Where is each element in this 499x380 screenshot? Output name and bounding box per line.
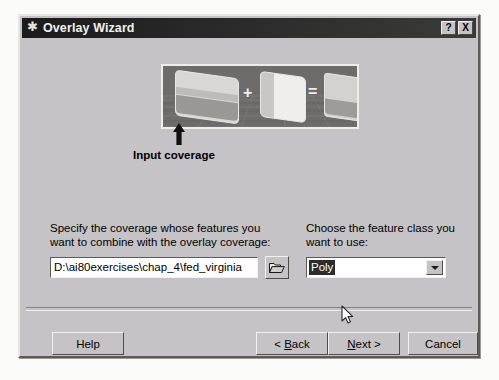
- titlebar[interactable]: ✱ Overlay Wizard ? X: [22, 18, 476, 38]
- coverage-field-label: Specify the coverage whose features you …: [50, 221, 286, 249]
- asterisk-icon: ✱: [24, 20, 40, 36]
- input-coverage-layer: [175, 70, 239, 125]
- up-arrow-icon: [172, 123, 186, 145]
- screenshot-root: ✱ Overlay Wizard ? X: [0, 0, 499, 380]
- overlay-wizard-dialog: ✱ Overlay Wizard ? X: [18, 14, 480, 358]
- cancel-button[interactable]: Cancel: [408, 332, 478, 355]
- feature-class-selected-value: Poly: [309, 260, 335, 275]
- coverage-path-input[interactable]: D:\ai80exercises\chap_4\fed_virginia: [50, 257, 258, 278]
- chevron-down-glyph: [431, 266, 439, 270]
- diagram-caption: Input coverage: [133, 149, 215, 161]
- close-button[interactable]: X: [458, 21, 473, 35]
- feature-class-field-label: Choose the feature class you want to use…: [306, 221, 456, 249]
- equals-symbol: =: [308, 83, 317, 101]
- window-title: Overlay Wizard: [43, 21, 441, 35]
- overlay-coverage-layer: [260, 71, 306, 123]
- back-button-label: < Back: [274, 338, 310, 350]
- chevron-down-icon[interactable]: [426, 260, 443, 275]
- help-button[interactable]: Help: [52, 332, 124, 355]
- next-button-label: Next >: [347, 338, 381, 350]
- button-row-divider: [26, 307, 472, 311]
- open-folder-icon: [269, 261, 285, 274]
- next-button[interactable]: Next >: [328, 332, 400, 355]
- help-titlebar-button[interactable]: ?: [441, 21, 456, 35]
- result-coverage-layer: [324, 72, 359, 121]
- back-button[interactable]: < Back: [256, 332, 328, 355]
- feature-class-selected-wrap[interactable]: Poly: [307, 258, 426, 277]
- overlay-diagram: + =: [161, 64, 359, 129]
- browse-button[interactable]: [265, 256, 289, 279]
- feature-class-dropdown[interactable]: Poly: [306, 257, 446, 278]
- plus-symbol: +: [243, 84, 252, 102]
- mouse-cursor: [341, 305, 354, 324]
- titlebar-buttons: ? X: [441, 21, 473, 35]
